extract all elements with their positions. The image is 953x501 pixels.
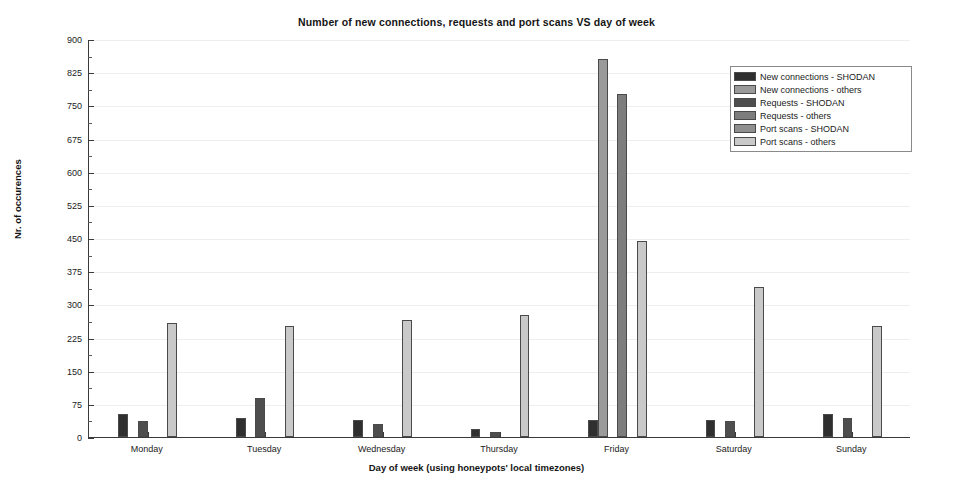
legend-swatch-icon	[734, 98, 756, 107]
bar	[588, 420, 598, 437]
bar	[490, 432, 500, 437]
bar	[637, 241, 647, 437]
x-tick-mark	[383, 432, 384, 437]
bar	[353, 420, 363, 437]
y-tick-label: 225	[36, 334, 82, 344]
legend-item-label: Requests - SHODAN	[760, 98, 845, 108]
legend-item-label: Port scans - SHODAN	[760, 124, 849, 134]
y-tick-label: 750	[36, 101, 82, 111]
x-tick-label-tuesday: Tuesday	[247, 444, 281, 454]
legend-item: Requests - others	[734, 109, 907, 122]
y-tick-mark	[88, 405, 94, 406]
x-tick-label-monday: Monday	[131, 444, 163, 454]
bar	[373, 424, 383, 437]
legend-item-label: Requests - others	[760, 111, 831, 121]
y-tick-minor	[88, 156, 92, 157]
y-tick-label: 300	[36, 300, 82, 310]
legend-item-label: Port scans - others	[760, 137, 836, 147]
gridline	[89, 339, 910, 340]
x-tick-label-friday: Friday	[604, 444, 629, 454]
gridline	[89, 372, 910, 373]
y-tick-label: 525	[36, 201, 82, 211]
x-tick-mark	[265, 432, 266, 437]
legend-swatch-icon	[734, 72, 756, 81]
bar-chart: Number of new connections, requests and …	[0, 0, 953, 501]
y-tick-minor	[88, 421, 92, 422]
bar	[843, 418, 853, 437]
x-tick-label-sunday: Sunday	[836, 444, 867, 454]
x-tick-mark	[500, 432, 501, 437]
bar	[402, 320, 412, 437]
legend-item: Port scans - others	[734, 135, 907, 148]
y-tick-mark	[88, 438, 94, 439]
bar	[471, 429, 481, 437]
legend-swatch-icon	[734, 124, 756, 133]
bar	[823, 414, 833, 437]
y-tick-mark	[88, 305, 94, 306]
gridline	[89, 40, 910, 41]
gridline	[89, 239, 910, 240]
bar	[167, 323, 177, 437]
x-tick-label-thursday: Thursday	[480, 444, 518, 454]
y-tick-label: 900	[36, 35, 82, 45]
bar	[598, 59, 608, 437]
bar	[285, 326, 295, 437]
y-tick-mark	[88, 372, 94, 373]
legend-item: New connections - others	[734, 83, 907, 96]
bar	[255, 398, 265, 437]
y-tick-label: 450	[36, 234, 82, 244]
chart-title: Number of new connections, requests and …	[0, 16, 953, 28]
legend-swatch-icon	[734, 137, 756, 146]
y-tick-minor	[88, 189, 92, 190]
y-tick-minor	[88, 355, 92, 356]
x-tick-mark	[148, 432, 149, 437]
y-axis-title: Nr. of occurences	[12, 159, 23, 239]
y-tick-mark	[88, 73, 94, 74]
gridline	[89, 206, 910, 207]
legend-item-label: New connections - SHODAN	[760, 72, 875, 82]
y-tick-mark	[88, 173, 94, 174]
gridline	[89, 305, 910, 306]
y-tick-minor	[88, 123, 92, 124]
legend-item: Requests - SHODAN	[734, 96, 907, 109]
y-tick-mark	[88, 206, 94, 207]
y-tick-mark	[88, 140, 94, 141]
y-tick-label: 825	[36, 68, 82, 78]
y-tick-mark	[88, 239, 94, 240]
gridline	[89, 405, 910, 406]
x-tick-mark	[852, 432, 853, 437]
x-tick-label-saturday: Saturday	[716, 444, 752, 454]
y-tick-minor	[88, 222, 92, 223]
bar	[706, 420, 716, 437]
y-tick-minor	[88, 90, 92, 91]
gridline	[89, 272, 910, 273]
legend-swatch-icon	[734, 111, 756, 120]
y-tick-label: 75	[36, 400, 82, 410]
y-tick-label: 150	[36, 367, 82, 377]
y-tick-minor	[88, 289, 92, 290]
bar	[617, 94, 627, 437]
y-tick-mark	[88, 272, 94, 273]
bar	[872, 326, 882, 437]
legend-item-label: New connections - others	[760, 85, 862, 95]
y-tick-mark	[88, 339, 94, 340]
gridline	[89, 173, 910, 174]
bar	[138, 421, 148, 437]
y-tick-label: 375	[36, 267, 82, 277]
bar	[520, 315, 530, 437]
y-tick-minor	[88, 256, 92, 257]
x-tick-mark	[735, 432, 736, 437]
y-tick-label: 0	[36, 433, 82, 443]
y-tick-minor	[88, 57, 92, 58]
bar	[118, 414, 128, 437]
x-tick-label-wednesday: Wednesday	[358, 444, 405, 454]
y-tick-mark	[88, 106, 94, 107]
x-axis-title: Day of week (using honeypots' local time…	[0, 462, 953, 473]
legend-swatch-icon	[734, 85, 756, 94]
y-tick-label: 600	[36, 168, 82, 178]
y-tick-label: 675	[36, 135, 82, 145]
bar	[236, 418, 246, 437]
legend-item: New connections - SHODAN	[734, 70, 907, 83]
legend-item: Port scans - SHODAN	[734, 122, 907, 135]
y-tick-minor	[88, 388, 92, 389]
